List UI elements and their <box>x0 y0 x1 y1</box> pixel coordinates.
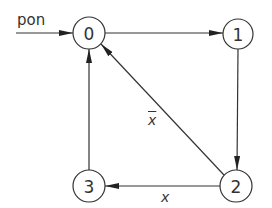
edge-2-to-3-label: x <box>161 190 169 204</box>
state-node-0-label: 0 <box>84 24 95 44</box>
edge-2-to-0 <box>101 44 224 175</box>
edge-2-to-0-label: x <box>148 113 156 127</box>
edge-2-to-0-line <box>101 44 224 175</box>
state-node-3: 3 <box>73 170 105 202</box>
state-node-3-label: 3 <box>84 177 95 197</box>
state-node-2: 2 <box>220 170 252 202</box>
state-node-2-label: 2 <box>231 177 242 197</box>
state-node-0: 0 <box>73 17 105 49</box>
edge-1-to-2-line <box>237 49 238 170</box>
state-node-1: 1 <box>223 19 253 49</box>
state-diagram: 0 1 2 3 <box>0 0 272 208</box>
edge-1-to-2 <box>237 49 238 170</box>
state-node-1-label: 1 <box>233 25 244 45</box>
entry-label: pon <box>17 13 45 28</box>
